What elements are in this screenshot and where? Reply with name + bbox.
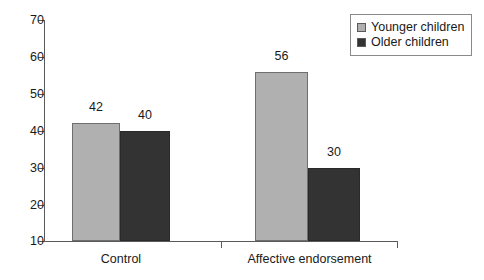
legend-label-older: Older children xyxy=(371,36,449,49)
bar-label-affective-younger: 56 xyxy=(255,50,308,63)
y-tick-10: 10 xyxy=(0,241,44,242)
bar-chart: 70 60 50 40 30 20 10 xyxy=(0,0,484,280)
bar-label-affective-older: 30 xyxy=(308,146,360,159)
y-tick-label-60: 60 xyxy=(10,51,44,63)
bar-control-older[interactable] xyxy=(120,131,170,241)
y-tick-50: 50 xyxy=(0,94,44,95)
legend-swatch-icon-younger xyxy=(357,23,366,32)
bar-label-control-older: 40 xyxy=(120,109,170,122)
y-tick-label-20: 20 xyxy=(10,199,44,211)
y-tick-label-30: 30 xyxy=(10,162,44,174)
bar-affective-younger[interactable] xyxy=(255,72,308,241)
bar-control-younger[interactable] xyxy=(72,123,120,241)
legend-label-younger: Younger children xyxy=(371,21,464,34)
y-tick-20: 20 xyxy=(0,205,44,206)
legend-item-younger-children[interactable]: Younger children xyxy=(357,20,464,35)
bar-label-control-younger: 42 xyxy=(71,101,121,114)
x-tick-separator xyxy=(221,241,222,248)
y-tick-40: 40 xyxy=(0,131,44,132)
y-tick-70: 70 xyxy=(0,20,44,21)
bar-affective-older[interactable] xyxy=(308,168,360,241)
x-axis-category-affective-endorsement: Affective endorsement xyxy=(237,252,382,266)
legend-swatch-icon-older xyxy=(357,38,366,47)
y-tick-label-10: 10 xyxy=(10,235,44,247)
y-axis-line xyxy=(44,20,45,242)
y-tick-label-40: 40 xyxy=(10,125,44,137)
y-tick-label-70: 70 xyxy=(10,14,44,26)
legend-item-older-children[interactable]: Older children xyxy=(357,35,464,50)
y-tick-label-50: 50 xyxy=(10,88,44,100)
y-tick-30: 30 xyxy=(0,168,44,169)
legend: Younger children Older children xyxy=(350,14,472,56)
y-tick-60: 60 xyxy=(0,57,44,58)
x-tick-end xyxy=(397,241,398,248)
x-axis-category-control: Control xyxy=(71,252,171,266)
